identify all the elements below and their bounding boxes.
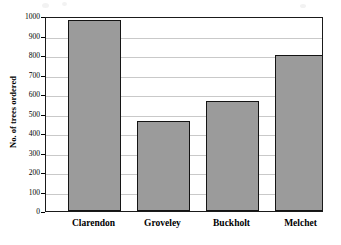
y-tick-label: 800 bbox=[12, 52, 40, 60]
scan-artifact bbox=[42, 3, 49, 8]
y-tick-label: 1000 bbox=[12, 13, 40, 21]
bar-groveley bbox=[137, 121, 190, 211]
y-tick-label: 600 bbox=[12, 91, 40, 99]
bar-clarendon bbox=[68, 20, 121, 211]
bar-melchet bbox=[275, 55, 323, 211]
y-tick-label: 200 bbox=[12, 169, 40, 177]
x-tick-label: Melchet bbox=[257, 218, 341, 228]
y-axis-tick-labels: 1000 900 800 700 600 500 400 300 200 100… bbox=[12, 17, 40, 212]
y-tick-label: 100 bbox=[12, 189, 40, 197]
y-tick-label: 300 bbox=[12, 150, 40, 158]
y-tick-label: 900 bbox=[12, 33, 40, 41]
bar-chart: No. of trees ordered 1000 900 800 700 60… bbox=[0, 0, 341, 245]
y-tick-label: 0 bbox=[12, 208, 40, 216]
scan-artifact bbox=[62, 2, 67, 6]
bar-buckholt bbox=[206, 101, 259, 211]
y-tick-label: 700 bbox=[12, 72, 40, 80]
plot-area bbox=[45, 17, 323, 212]
y-tick-mark bbox=[41, 212, 45, 213]
y-tick-label: 500 bbox=[12, 111, 40, 119]
scan-artifact bbox=[300, 4, 306, 8]
y-tick-label: 400 bbox=[12, 130, 40, 138]
x-axis-tick-labels: Clarendon Groveley Buckholt Melchet bbox=[45, 218, 323, 234]
